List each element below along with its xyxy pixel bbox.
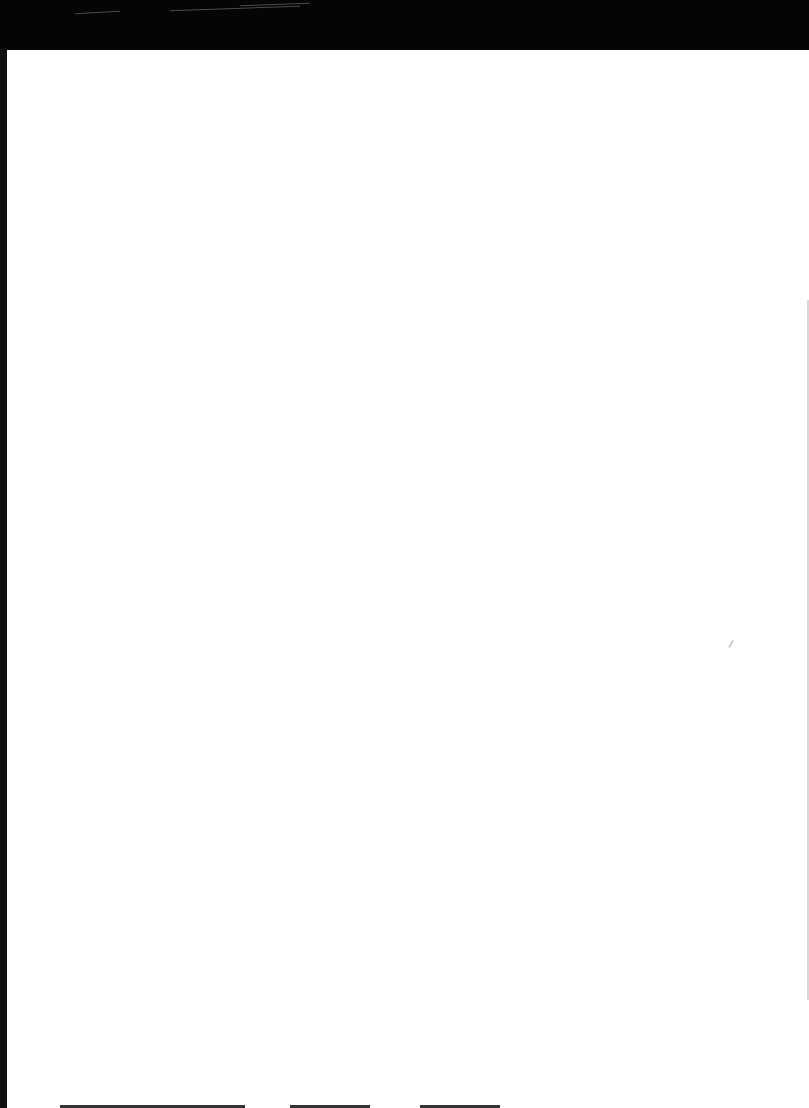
blank-page: [7, 50, 809, 1108]
scan-streak: [75, 11, 120, 14]
scan-streak: [170, 6, 300, 12]
scan-top-band: [0, 0, 809, 50]
scan-left-edge: [0, 48, 7, 1108]
